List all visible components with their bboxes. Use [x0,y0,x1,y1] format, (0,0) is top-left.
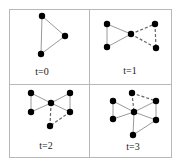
edge-solid [133,112,134,135]
panel-t1: t=1 [104,21,159,76]
panels: t=0t=1t=2t=3 [28,13,159,152]
node [28,90,34,96]
edge-solid [133,120,156,135]
node [47,123,53,129]
node [110,116,116,122]
node [67,109,73,115]
panel-t0: t=0 [35,13,68,77]
panel-label: t=1 [123,65,136,76]
edge-dashed [131,34,156,48]
edge-solid [107,24,131,34]
node [131,109,137,115]
panel-grid [9,9,172,158]
node [128,31,134,37]
node [110,98,116,104]
edge-solid [41,36,65,54]
temporal-graph-figure: t=0t=1t=2t=3 [0,0,178,166]
edge-dashed [50,112,70,126]
node [28,109,34,115]
edge-solid [113,101,134,112]
panel-label: t=2 [39,140,52,151]
node [48,100,54,106]
panel-label: t=3 [126,141,139,152]
node [39,13,45,19]
edge-dashed [131,24,155,34]
edge-dashed [50,103,51,126]
node [130,132,136,138]
edge-dashed [132,93,156,101]
panel-label: t=0 [35,66,48,77]
grid-border [10,10,172,158]
edge-solid [107,34,131,47]
edge-solid [113,112,134,119]
edge-solid [31,93,51,103]
node [153,117,159,123]
node [152,21,158,27]
node [62,33,68,39]
edge-solid [31,103,51,112]
node [153,45,159,51]
node [129,90,135,96]
edge-solid [134,101,156,112]
edge-dashed [155,24,156,48]
node [67,90,73,96]
node [153,98,159,104]
panel-t3: t=3 [110,90,159,152]
edge-solid [51,93,70,103]
edge-solid [41,16,42,54]
node [104,21,110,27]
node [38,51,44,57]
edge-solid [42,16,65,36]
edge-solid [134,112,156,120]
node [104,44,110,50]
panel-t2: t=2 [28,90,73,151]
